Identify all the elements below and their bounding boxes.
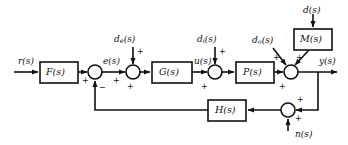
noise-summing-junction-circle[interactable] — [281, 103, 295, 117]
controller-disturbance-label: de(s) — [114, 35, 135, 45]
output-disturbance-label: do(s) — [252, 36, 273, 46]
plant-block-label: P(s) — [243, 67, 262, 77]
block-diagram-canvas: F(s) G(s) P(s) H(s) M(s) r(s) e(s) u(s) … — [0, 0, 348, 145]
sign-plus-m-to-sum4: + — [296, 54, 303, 62]
input-disturbance-junction-circle[interactable] — [208, 65, 222, 79]
wire-feedback-to-sum1 — [95, 81, 208, 110]
sign-plus-u-to-sum3: + — [201, 83, 208, 91]
reference-signal-label: r(s) — [18, 57, 34, 66]
sign-plus-prefilter-to-sum1: + — [82, 77, 89, 85]
input-disturbance-label: di(s) — [197, 35, 217, 45]
control-signal-label: u(s) — [194, 57, 211, 66]
prefilter-block-label: F(s) — [46, 67, 65, 77]
feedback-block-label: H(s) — [215, 105, 236, 115]
output-disturbance-junction-circle[interactable] — [284, 65, 298, 79]
disturbance-signal-label: d(s) — [303, 6, 320, 15]
error-summing-junction-circle[interactable] — [88, 65, 102, 79]
controller-disturbance-junction-circle[interactable] — [126, 65, 140, 79]
error-signal-label: e(s) — [103, 57, 120, 66]
input-disturbance-paren: (s) — [205, 34, 217, 44]
output-signal-label: y(s) — [319, 57, 336, 66]
noise-signal-label: n(s) — [295, 130, 312, 139]
sign-minus-feedback-to-sum1: − — [99, 84, 106, 92]
output-disturbance-paren: (s) — [262, 35, 274, 45]
sign-plus-sum1-to-sum2: + — [113, 77, 120, 85]
sign-plus-plant-to-sum4: + — [279, 83, 286, 91]
sign-plus-sum2-out: + — [127, 83, 134, 91]
sign-plus-do-to-sum4: + — [273, 54, 280, 62]
wire-output-tap-to-sum5 — [296, 72, 318, 110]
sign-plus-di-to-sum3: + — [219, 48, 226, 56]
sign-plus-y-to-sum5: + — [297, 96, 304, 104]
sign-plus-n-to-sum5: + — [295, 115, 302, 123]
controller-block-label: G(s) — [159, 67, 179, 77]
controller-disturbance-paren: (s) — [124, 34, 136, 44]
sign-plus-de-to-sum2: + — [137, 48, 144, 56]
disturbance-model-block-label: M(s) — [300, 34, 322, 44]
